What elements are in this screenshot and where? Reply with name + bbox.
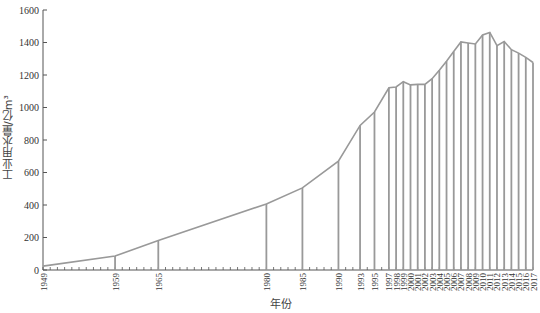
- y-tick-label: 200: [24, 232, 39, 243]
- x-axis-title: 年份: [270, 295, 292, 311]
- x-tick-label: 1995: [370, 273, 380, 292]
- y-tick-label: 1400: [19, 37, 39, 48]
- x-tick-label: 1990: [334, 273, 344, 292]
- y-tick-label: 1200: [19, 70, 39, 81]
- data-line: [43, 32, 533, 266]
- x-tick-label: 1980: [262, 273, 272, 292]
- y-tick-label: 1000: [19, 102, 39, 113]
- y-tick-label: 600: [24, 167, 39, 178]
- y-tick-label: 400: [24, 200, 39, 211]
- y-tick-label: 1600: [19, 5, 39, 16]
- x-tick-label: 1993: [356, 273, 366, 292]
- x-tick-label: 1959: [111, 273, 121, 292]
- y-axis: 02004006008001000120014001600: [19, 5, 47, 276]
- x-tick-label: 1965: [154, 273, 164, 292]
- y-axis-title: 工业用水量/亿m³: [2, 78, 16, 198]
- x-tick-label: 2017: [529, 273, 539, 292]
- chart-canvas: 02004006008001000120014001600 1949195919…: [0, 0, 540, 313]
- y-tick-label: 800: [24, 135, 39, 146]
- x-tick-label: 1949: [39, 273, 49, 292]
- x-tick-label: 1985: [298, 273, 308, 292]
- x-axis: 1949195919651980198519901993199519971998…: [39, 267, 539, 291]
